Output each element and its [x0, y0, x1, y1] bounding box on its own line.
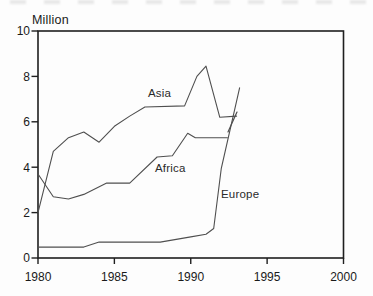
y-tick-label: 2 — [23, 206, 30, 220]
x-tick-label: 2000 — [330, 270, 357, 284]
africa-line — [38, 133, 227, 199]
x-tick-label: 1980 — [25, 270, 52, 284]
plot-frame — [38, 31, 344, 258]
x-tick-label: 1995 — [254, 270, 281, 284]
y-tick-label: 8 — [23, 70, 30, 84]
refugee-line-chart-figure: 024681019801985199019952000 Million Asia… — [0, 0, 373, 296]
series-label-africa: Africa — [155, 162, 186, 174]
y-tick-label: 6 — [23, 115, 30, 129]
y-tick-label: 0 — [23, 251, 30, 265]
series-label-europe: Europe — [221, 188, 259, 200]
y-tick-label: 4 — [23, 161, 30, 175]
line-break-mark — [228, 112, 237, 132]
asia-line — [38, 66, 237, 212]
x-tick-label: 1985 — [101, 270, 128, 284]
x-tick-label: 1990 — [177, 270, 204, 284]
y-axis-title: Million — [32, 13, 69, 27]
series-label-asia: Asia — [148, 87, 171, 99]
line-plot-canvas: 024681019801985199019952000 — [0, 0, 373, 296]
y-tick-label: 10 — [17, 24, 31, 38]
europe-line — [38, 88, 240, 247]
